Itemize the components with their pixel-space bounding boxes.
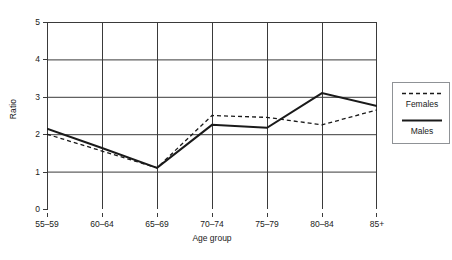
x-tick-label: 60–64 — [79, 219, 125, 229]
y-tick-label: 4 — [26, 55, 40, 64]
x-tick-mark — [102, 213, 103, 217]
x-tick-label: 55–59 — [24, 219, 70, 229]
x-tick-mark — [212, 213, 213, 217]
y-tick-label: 5 — [26, 18, 40, 27]
x-tick-mark — [376, 213, 377, 217]
x-tick-mark — [157, 213, 158, 217]
x-tick-label: 70–74 — [189, 219, 235, 229]
legend-item-males: Males — [393, 116, 451, 137]
legend-label-males: Males — [393, 125, 451, 137]
y-tick-label: 0 — [26, 205, 40, 214]
y-axis-tick-labels: 012345 — [26, 22, 40, 209]
y-tick-label: 3 — [26, 93, 40, 102]
x-tick-label: 75–79 — [244, 219, 290, 229]
legend-swatch-solid-line-icon — [393, 116, 451, 125]
x-tick-mark — [267, 213, 268, 217]
y-tick-label: 1 — [26, 168, 40, 177]
x-tick-label: 65–69 — [134, 219, 180, 229]
x-axis-title: Age group — [47, 233, 377, 243]
x-tick-mark — [322, 213, 323, 217]
x-axis-tick-labels: 55–5960–6465–6970–7475–7980–8485+ — [47, 213, 377, 227]
y-axis-title: Ratio — [8, 79, 18, 139]
y-tick-mark — [43, 209, 48, 210]
chart-plot-svg — [47, 22, 377, 209]
chart-legend: Females Males — [392, 82, 450, 144]
x-tick-mark — [47, 213, 48, 217]
legend-item-females: Females — [393, 89, 451, 110]
x-tick-label: 85+ — [354, 219, 400, 229]
chart-container: 012345 Ratio 55–5960–6465–6970–7475–7980… — [0, 0, 452, 260]
plot-area — [47, 22, 377, 209]
legend-label-females: Females — [393, 98, 451, 110]
legend-swatch-dashed-line-icon — [393, 89, 451, 98]
x-tick-label: 80–84 — [299, 219, 345, 229]
y-tick-label: 2 — [26, 130, 40, 139]
